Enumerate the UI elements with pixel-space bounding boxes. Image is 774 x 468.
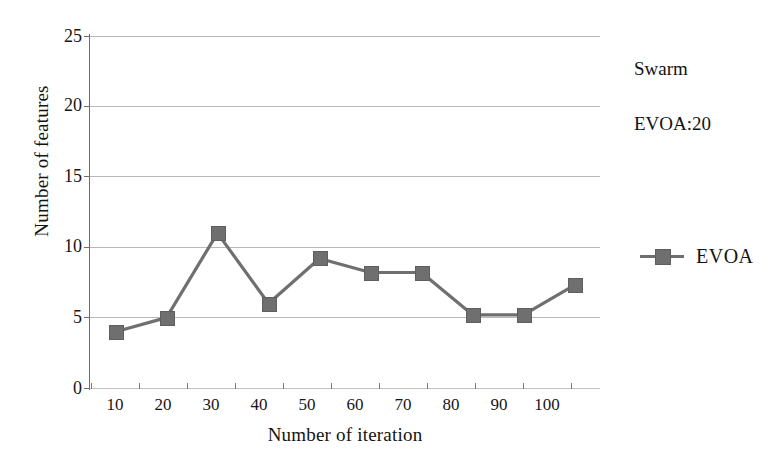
- x-tick-label-30: 30: [185, 395, 237, 415]
- data-point-90: [517, 308, 532, 323]
- x-tick-mark-2: [187, 383, 188, 389]
- x-tick-mark-0: [91, 383, 92, 389]
- data-point-80: [466, 308, 481, 323]
- gridline-20: [90, 106, 600, 107]
- x-tick-label-50: 50: [281, 395, 333, 415]
- gridline-15: [90, 176, 600, 177]
- x-tick-label-60: 60: [329, 395, 381, 415]
- y-tick-label-5: 5: [40, 308, 82, 326]
- y-tick-label-25: 25: [40, 27, 82, 45]
- x-tick-label-20: 20: [137, 395, 189, 415]
- data-point-60: [364, 266, 379, 281]
- y-tick-label-0: 0: [40, 379, 82, 397]
- data-point-100: [568, 278, 583, 293]
- x-axis-tick-labels: 10 20 30 40 50 60 70 80 90 100: [90, 395, 600, 421]
- x-tick-label-70: 70: [377, 395, 429, 415]
- legend-symbol-evoa: [640, 248, 684, 264]
- data-point-10: [109, 325, 124, 340]
- x-tick-mark-5: [331, 383, 332, 389]
- x-tick-mark-8: [475, 383, 476, 389]
- x-tick-label-80: 80: [425, 395, 477, 415]
- x-tick-label-40: 40: [233, 395, 285, 415]
- chart-legend: EVOA: [640, 243, 754, 269]
- x-tick-mark-6: [379, 383, 380, 389]
- x-tick-label-90: 90: [473, 395, 525, 415]
- x-tick-mark-3: [235, 383, 236, 389]
- data-point-30: [211, 226, 226, 241]
- chart-figure: 25 20 15 10 5 0: [0, 0, 774, 468]
- annotation-swarm: Swarm: [634, 58, 688, 80]
- plot-area: [90, 36, 600, 388]
- data-point-20: [160, 311, 175, 326]
- y-axis-title: Number of features: [31, 51, 53, 271]
- x-tick-mark-1: [139, 383, 140, 389]
- legend-square-marker-icon: [655, 249, 671, 265]
- gridline-10: [90, 247, 600, 248]
- data-point-40: [262, 297, 277, 312]
- x-tick-label-100: 100: [521, 395, 573, 415]
- legend-label-evoa: EVOA: [696, 245, 754, 267]
- x-tick-mark-10: [571, 383, 572, 389]
- x-tick-mark-4: [283, 383, 284, 389]
- annotation-evoa-count: EVOA:20: [634, 113, 711, 135]
- x-tick-label-10: 10: [89, 395, 141, 415]
- x-tick-mark-9: [523, 383, 524, 389]
- gridline-25: [90, 36, 600, 37]
- data-point-50: [313, 251, 328, 266]
- x-axis-title: Number of iteration: [150, 424, 540, 446]
- x-tick-mark-7: [427, 383, 428, 389]
- data-point-70: [415, 266, 430, 281]
